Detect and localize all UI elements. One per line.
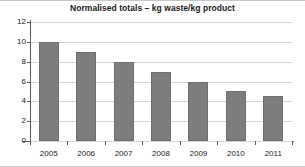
bar-2010 xyxy=(226,91,246,141)
gridline xyxy=(30,141,292,142)
x-axis-tick-label: 2006 xyxy=(66,149,106,158)
bar-2009 xyxy=(188,82,208,142)
x-axis-tick-label: 2005 xyxy=(29,149,69,158)
bar-2008 xyxy=(151,72,171,141)
y-axis-tick-mark xyxy=(27,101,31,102)
x-axis-tick-mark xyxy=(105,141,106,145)
gridline xyxy=(30,42,292,43)
y-axis-tick-label: 10 xyxy=(4,38,26,46)
x-axis-tick-mark xyxy=(217,141,218,145)
bar-2007 xyxy=(114,62,134,141)
plot-area xyxy=(30,22,292,141)
x-axis-tick-mark xyxy=(142,141,143,145)
bar-2011 xyxy=(263,96,283,141)
x-axis-tick-mark xyxy=(255,141,256,145)
bar-2006 xyxy=(76,52,96,141)
y-axis-tick-labels: 024681012 xyxy=(0,22,26,141)
gridline xyxy=(30,22,292,23)
y-axis-tick-label: 4 xyxy=(4,97,26,105)
y-axis-tick-mark xyxy=(27,121,31,122)
x-axis-tick-mark xyxy=(292,141,293,145)
x-axis-tick-label: 2010 xyxy=(216,149,256,158)
y-axis-tick-label: 12 xyxy=(4,18,26,26)
x-axis-tick-label: 2009 xyxy=(178,149,218,158)
y-axis-tick-mark xyxy=(27,62,31,63)
x-axis-tick-label: 2011 xyxy=(253,149,293,158)
chart-title: Normalised totals – kg waste/kg product xyxy=(0,3,305,13)
x-axis-tick-label: 2007 xyxy=(104,149,144,158)
bar-2005 xyxy=(39,42,59,141)
y-axis-tick-mark xyxy=(27,22,31,23)
y-axis-tick-label: 2 xyxy=(4,117,26,125)
x-axis-tick-mark xyxy=(67,141,68,145)
y-axis-tick-label: 6 xyxy=(4,78,26,86)
x-axis-tick-mark xyxy=(30,141,31,145)
x-axis-tick-mark xyxy=(180,141,181,145)
gridline xyxy=(30,62,292,63)
y-axis-tick-label: 8 xyxy=(4,58,26,66)
x-axis-tick-label: 2008 xyxy=(141,149,181,158)
y-axis-tick-mark xyxy=(27,42,31,43)
y-axis-tick-mark xyxy=(27,82,31,83)
bar-chart-figure: Normalised totals – kg waste/kg product … xyxy=(0,0,305,167)
